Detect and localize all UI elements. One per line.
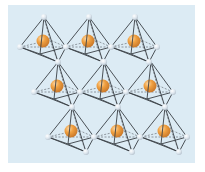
vertex-atom — [31, 89, 37, 95]
center-atom — [158, 125, 171, 138]
center-atom — [111, 125, 124, 138]
bond-edge — [141, 137, 161, 144]
vertex-atom — [101, 59, 107, 65]
bond-edge — [48, 137, 68, 144]
center-atom — [37, 35, 50, 48]
vertex-atom — [129, 149, 135, 155]
vertex-atom — [123, 89, 129, 95]
bond-edge — [94, 137, 114, 144]
vertex-atom — [55, 59, 61, 65]
vertex-atom — [184, 134, 190, 140]
vertex-atom — [176, 149, 182, 155]
vertex-atom — [77, 89, 83, 95]
vertex-atom — [83, 149, 89, 155]
vertex-atom — [115, 104, 121, 110]
vertex-atom — [162, 104, 168, 110]
octahedra-group — [17, 14, 190, 155]
center-atom — [82, 35, 95, 48]
vertex-atom — [69, 104, 75, 110]
center-atom — [51, 80, 64, 93]
bond-edge — [127, 92, 147, 99]
center-atom — [128, 35, 141, 48]
center-atom — [144, 80, 157, 93]
vertex-atom — [146, 59, 152, 65]
vertex-atom — [63, 44, 69, 50]
bond-edge — [20, 47, 40, 54]
vertex-atom — [108, 44, 114, 50]
vertex-atom — [45, 134, 51, 140]
vertex-atom — [86, 14, 92, 20]
vertex-atom — [132, 14, 138, 20]
vertex-atom — [137, 134, 143, 140]
vertex-atom — [170, 89, 176, 95]
vertex-atom — [91, 134, 97, 140]
vertex-atom — [41, 14, 47, 20]
center-atom — [97, 80, 110, 93]
vertex-atom — [154, 44, 160, 50]
bond-edge — [111, 47, 131, 54]
center-atom — [65, 125, 78, 138]
vertex-atom — [17, 44, 23, 50]
octahedral-lattice-diagram — [0, 0, 205, 172]
bond-edge — [34, 92, 54, 99]
bond-edge — [80, 92, 100, 99]
